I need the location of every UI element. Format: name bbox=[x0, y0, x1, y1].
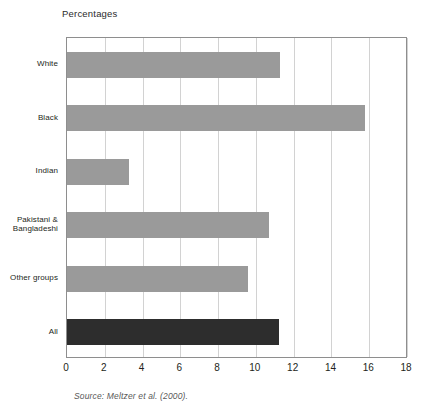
x-tick-label: 6 bbox=[177, 362, 183, 373]
bar bbox=[67, 319, 279, 345]
category-label-line: All bbox=[0, 327, 58, 337]
category-label: White bbox=[0, 59, 62, 69]
value-axis-labels: 024681012141618 bbox=[0, 362, 422, 380]
x-tick-label: 14 bbox=[325, 362, 336, 373]
bar bbox=[67, 105, 365, 131]
x-tick-label: 10 bbox=[249, 362, 260, 373]
x-tick-label: 8 bbox=[214, 362, 220, 373]
x-tick-label: 16 bbox=[363, 362, 374, 373]
category-label: All bbox=[0, 327, 62, 337]
chart-title: Percentages bbox=[62, 8, 118, 19]
category-label: Pakistani &Bangladeshi bbox=[0, 215, 62, 234]
category-label-line: Black bbox=[0, 113, 58, 123]
category-axis-labels: WhiteBlackIndianPakistani &BangladeshiOt… bbox=[0, 37, 62, 358]
bar bbox=[67, 159, 129, 185]
bar bbox=[67, 52, 280, 78]
category-label: Black bbox=[0, 113, 62, 123]
gridline bbox=[407, 38, 408, 357]
bar bbox=[67, 212, 269, 238]
x-tick-label: 12 bbox=[287, 362, 298, 373]
x-tick-label: 2 bbox=[101, 362, 107, 373]
bar bbox=[67, 266, 248, 292]
category-label: Indian bbox=[0, 166, 62, 176]
source-note: Source: Meltzer et al. (2000). bbox=[74, 391, 188, 401]
bars-layer bbox=[67, 38, 406, 357]
x-tick-label: 4 bbox=[139, 362, 145, 373]
x-tick-label: 18 bbox=[400, 362, 411, 373]
category-label-line: Bangladeshi bbox=[0, 224, 58, 234]
bar-chart-figure: Percentages WhiteBlackIndianPakistani &B… bbox=[0, 0, 422, 413]
x-tick-label: 0 bbox=[63, 362, 69, 373]
category-label-line: Pakistani & bbox=[0, 215, 58, 225]
plot-area bbox=[66, 37, 407, 358]
category-label: Other groups bbox=[0, 273, 62, 283]
category-label-line: Other groups bbox=[0, 273, 58, 283]
category-label-line: Indian bbox=[0, 166, 58, 176]
category-label-line: White bbox=[0, 59, 58, 69]
